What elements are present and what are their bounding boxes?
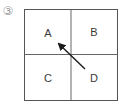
figure-canvas: ③ A B C D <box>0 0 124 105</box>
cell-label-d: D <box>90 72 98 84</box>
arrow-d-to-a-icon <box>59 44 85 69</box>
cell-label-b: B <box>90 26 97 38</box>
quadrant-grid-diagram: A B C D <box>0 0 124 105</box>
cell-label-a: A <box>44 27 52 39</box>
cell-label-c: C <box>44 72 52 84</box>
